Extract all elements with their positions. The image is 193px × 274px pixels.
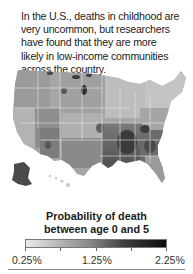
legend-max-label: 2.25% [155, 254, 185, 266]
hawaii [49, 175, 70, 187]
legend-tick [166, 248, 167, 251]
intro-text: In the U.S., deaths in childhood are ver… [21, 10, 181, 76]
legend-mid-label: 1.25% [82, 254, 112, 266]
bottom-divider [8, 269, 185, 270]
legend-title: Probability of death between age 0 and 5 [0, 210, 193, 236]
us-choropleth-map [0, 68, 193, 193]
legend-tick [96, 248, 97, 251]
legend-tick [25, 248, 26, 251]
alaska [12, 162, 32, 186]
legend-tick [131, 248, 132, 251]
legend-tick [60, 248, 61, 251]
legend-min-label: 0.25% [12, 254, 42, 266]
legend-title-line2: between age 0 and 5 [0, 223, 193, 236]
legend-title-line1: Probability of death [0, 210, 193, 223]
contiguous-us [0, 68, 193, 193]
legend-color-scale [25, 239, 167, 248]
